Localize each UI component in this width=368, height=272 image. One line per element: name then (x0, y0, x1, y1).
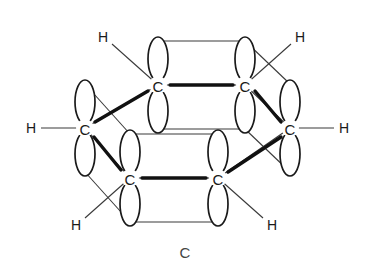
p-orbital-lobe-upper (280, 80, 300, 124)
hydrogen-label-bottom-right: H (267, 217, 277, 233)
benzene-orbital-svg: C C C C C C H H H H H H C (0, 0, 368, 272)
p-orbital-lobe-upper (120, 130, 140, 174)
carbon-label-right: C (285, 121, 296, 138)
p-orbital-lobe-lower (148, 89, 168, 133)
p-orbital-lobe-upper (208, 130, 228, 174)
carbon-label-group: C C C C C C (76, 76, 299, 188)
hydrogen-label-top-right: H (295, 29, 305, 45)
p-orbital-lobe-upper (75, 80, 95, 124)
carbon-label-top-left: C (153, 78, 164, 95)
hydrogen-label-group: H H H H H H (26, 29, 349, 233)
p-orbital-lobe-lower (280, 132, 300, 176)
ring-bond-bottomright-right (228, 137, 281, 172)
carbon-label-bottom-left: C (125, 171, 136, 188)
hydrogen-label-bottom-left: H (71, 217, 81, 233)
p-orbital-lobe-lower (75, 132, 95, 176)
ring-bond-left-bottomleft (94, 137, 121, 170)
ring-bond-left-topleft (95, 91, 148, 122)
p-orbital-lobe-lower (120, 182, 140, 226)
carbon-label-bottom-right: C (213, 171, 224, 188)
molecule-diagram-container: C C C C C C H H H H H H C (0, 0, 368, 272)
carbon-label-left: C (80, 121, 91, 138)
hydrogen-label-top-left: H (98, 29, 108, 45)
orbital-overlap-rail-group (85, 41, 290, 222)
p-orbital-lobe-upper (148, 37, 168, 81)
p-orbital-lobe-lower (235, 89, 255, 133)
ring-bond-topright-right (255, 91, 281, 122)
hydrogen-label-left: H (26, 120, 36, 136)
figure-caption: C (180, 244, 191, 261)
p-orbital-lobe-lower (208, 182, 228, 226)
hydrogen-label-right: H (339, 120, 349, 136)
p-orbital-lobe-upper (235, 37, 255, 81)
carbon-label-top-right: C (240, 78, 251, 95)
